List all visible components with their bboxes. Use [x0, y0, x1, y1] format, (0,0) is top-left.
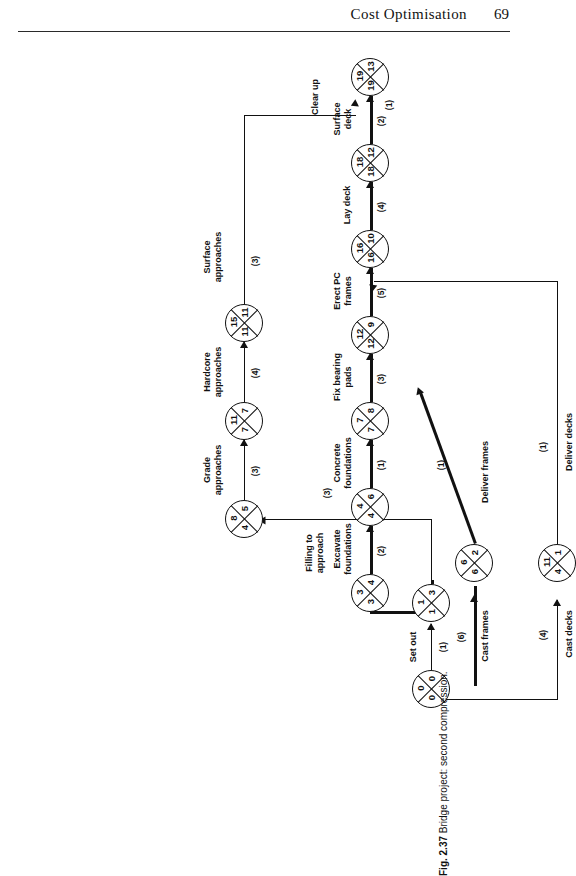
label-clear-up: Clear up [310, 64, 321, 130]
node-concrete-end: 4 4 6 [351, 488, 389, 526]
node-surface-deck-end: 18 18 12 [351, 144, 389, 182]
edge-fix-pads [370, 354, 373, 402]
label-concrete: Concrete foundations [332, 430, 353, 496]
duration-cast-decks: (4) [538, 614, 548, 656]
duration-surface-approaches: (3) [250, 240, 260, 282]
node-hardcore-end: 15 11 11 [225, 304, 263, 342]
duration-cast-frames: (6) [456, 616, 466, 658]
page-header: Cost Optimisation 69 [0, 0, 529, 34]
node-grade-end: 11 7 7 [225, 402, 263, 440]
duration-erect: (5) [376, 272, 386, 314]
arrowhead-grade [240, 439, 248, 446]
arrowhead-set-out [427, 623, 435, 630]
edge-cast-decks-c [557, 600, 558, 656]
node-excavate-end: 3 3 4 [351, 574, 389, 612]
label-excavate: Excavate foundations [332, 516, 353, 582]
label-filling-to-approach: Filling to approach [304, 518, 325, 588]
node-finish: 19 19 13 [351, 58, 389, 96]
label-lay-deck: Lay deck [342, 172, 353, 238]
edge-lay-deck [370, 182, 373, 230]
edge-excavate [370, 526, 373, 574]
duration-deliver-decks: (1) [538, 426, 548, 468]
arrowhead-excavate [366, 525, 374, 532]
arrowhead-erect [366, 267, 374, 274]
figure-caption-text: Bridge project: second compression. [438, 671, 449, 833]
label-hardcore-approaches: Hardcore approaches [202, 338, 223, 406]
duration-hardcore-approaches: (4) [250, 352, 260, 394]
node-lay-deck-end: 16 16 10 [351, 230, 389, 268]
label-deliver-frames: Deliver frames [480, 432, 491, 512]
edge-deliver-frames [419, 393, 477, 544]
label-deliver-decks: Deliver decks [564, 400, 575, 484]
edge-surface-deck [370, 96, 373, 144]
duration-grade-approaches: (3) [250, 450, 260, 492]
node-erect-end: 12 12 9 [351, 316, 389, 354]
figure-number: Fig. 2.37 [438, 833, 449, 876]
arrowhead-fix-pads [366, 353, 374, 360]
running-head-title: Cost Optimisation [351, 6, 467, 23]
label-grade-approaches: Grade approaches [202, 436, 223, 504]
label-surface-approaches: Surface approaches [202, 218, 223, 296]
label-erect: Erect PC frames [332, 258, 353, 324]
edge-deliver-decks-b [374, 281, 558, 282]
edge-cast-decks-a [557, 656, 558, 700]
edge-concrete [370, 440, 373, 488]
label-cast-frames: Cast frames [480, 600, 491, 672]
edge-deliver-decks-a [557, 282, 558, 544]
duration-fix-pads: (3) [376, 358, 386, 400]
duration-excavate: (2) [376, 530, 386, 572]
node-cast-decks-end: 11 4 1 [538, 544, 576, 582]
label-set-out: Set out [408, 618, 419, 676]
label-cast-decks: Cast decks [564, 598, 575, 670]
node-fix-pads-end: 7 7 8 [351, 402, 389, 440]
arrowhead-surface-deck [366, 95, 374, 102]
duration-clear-up: (1) [384, 84, 394, 126]
edge-grade [244, 440, 245, 500]
edge-hardcore [244, 342, 245, 402]
arrowhead-concrete [366, 439, 374, 446]
label-surface-deck: Surface deck [332, 86, 353, 152]
node-cast-frames-end: 6 6 2 [455, 544, 493, 582]
edge-surface-approaches-a [244, 116, 245, 304]
duration-deliver-frames: (1) [436, 444, 446, 486]
edge-cast-decks-b [431, 699, 557, 700]
arrowhead-lay-deck [366, 181, 374, 188]
network-diagram: 0 0 0 1 1 3 3 3 4 4 4 6 7 7 8 12 12 9 16… [12, 30, 482, 730]
arrowhead-hardcore [240, 341, 248, 348]
edge-set-out [431, 624, 432, 670]
duration-concrete: (1) [376, 444, 386, 486]
arrowhead-cast-decks [553, 599, 561, 606]
duration-filling-to-approach: (3) [322, 472, 332, 514]
arrowhead-cast-frames [470, 595, 478, 602]
label-fix-pads: Fix bearing pads [332, 344, 353, 410]
figure-caption: Fig. 2.37 Bridge project: second compres… [438, 556, 449, 876]
duration-lay-deck: (4) [376, 186, 386, 228]
node-fill-end: 8 4 5 [225, 500, 263, 538]
page-number: 69 [494, 6, 509, 23]
